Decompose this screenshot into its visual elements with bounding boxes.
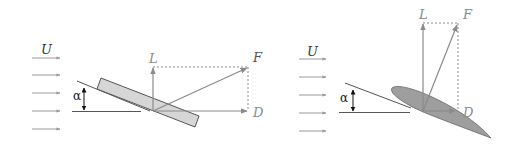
lift-drag-diagram: U α L F D U bbox=[0, 0, 524, 160]
flow-velocity-label: U bbox=[307, 44, 319, 59]
angle-of-attack-label: α bbox=[340, 91, 348, 105]
resultant-force-label: F bbox=[462, 7, 473, 22]
lift-label: L bbox=[418, 7, 428, 22]
flat-plate-diagram: U α L F D bbox=[32, 42, 264, 129]
resultant-force-vector bbox=[423, 25, 457, 111]
angle-of-attack-label: α bbox=[73, 89, 81, 103]
resultant-force-label: F bbox=[252, 50, 263, 65]
flat-plate bbox=[97, 78, 199, 127]
drag-label: D bbox=[252, 105, 264, 120]
lift-label: L bbox=[148, 51, 158, 66]
drag-label: D bbox=[462, 105, 474, 120]
resultant-force-vector bbox=[153, 68, 247, 111]
airfoil-diagram: U α L F D bbox=[299, 7, 491, 138]
flow-velocity-label: U bbox=[41, 42, 53, 57]
flow-arrows bbox=[299, 59, 326, 131]
flow-arrows bbox=[32, 58, 60, 129]
